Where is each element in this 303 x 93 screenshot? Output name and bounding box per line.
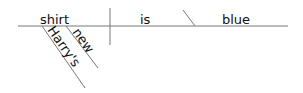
sentence-diagram: shirt is blue Harry's new [0,0,303,93]
predicate-adjective-word: blue [222,12,250,27]
diagram-canvas: shirt is blue Harry's new [0,0,303,93]
predicate-adjective-divider [183,10,195,26]
verb-word: is [140,12,151,27]
